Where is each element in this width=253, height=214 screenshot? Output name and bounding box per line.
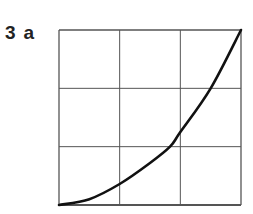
chart <box>0 0 253 214</box>
chart-curve <box>59 30 241 205</box>
chart-grid <box>59 30 241 205</box>
